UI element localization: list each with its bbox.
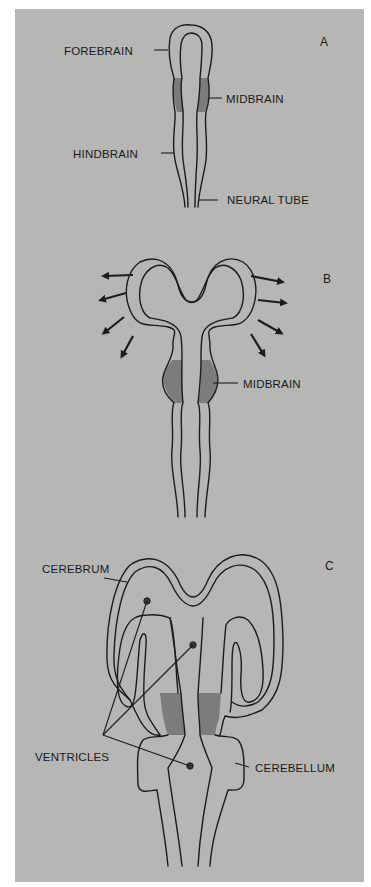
label-cerebellum: CEREBELLUM xyxy=(255,762,335,774)
panel-letter-a: A xyxy=(320,35,328,49)
panel-letter-c: C xyxy=(325,559,334,573)
label-neural-tube: NEURAL TUBE xyxy=(227,194,309,206)
label-hindbrain: HINDBRAIN xyxy=(73,148,138,160)
label-midbrain-a: MIDBRAIN xyxy=(226,93,284,105)
label-midbrain-b: MIDBRAIN xyxy=(243,378,301,390)
expansion-arrow-left-1 xyxy=(104,275,133,276)
label-cerebrum: CEREBRUM xyxy=(42,563,109,575)
label-forebrain: FOREBRAIN xyxy=(64,45,133,57)
panel-letter-b: B xyxy=(323,272,331,286)
brain-development-figure: FOREBRAIN MIDBRAIN HINDBRAIN NEURAL TUBE… xyxy=(0,0,371,887)
label-ventricles: VENTRICLES xyxy=(35,751,109,763)
